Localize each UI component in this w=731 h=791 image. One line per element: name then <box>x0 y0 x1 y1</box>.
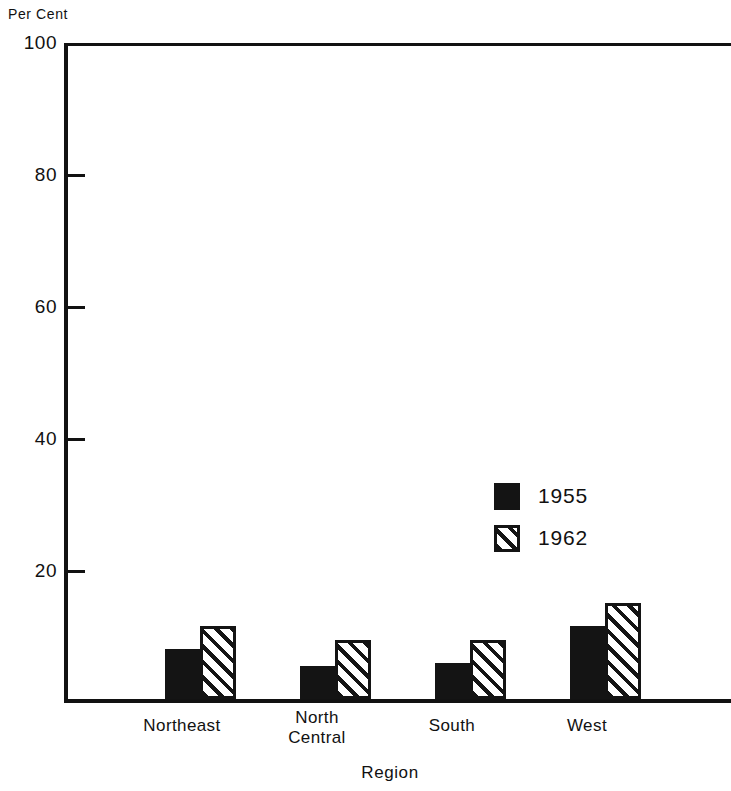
bars-layer <box>64 43 731 703</box>
x-label-north-central: North Central <box>288 708 346 748</box>
x-axis-title: Region <box>361 763 418 783</box>
legend-label-1962: 1962 <box>538 526 588 550</box>
y-tick-label-60: 60 <box>35 296 57 318</box>
bar-chart-figure: Per Cent 100 80 60 40 20 <box>0 0 731 791</box>
legend-swatch-1955 <box>494 483 520 510</box>
bar-west-1955 <box>570 626 605 699</box>
bar-northeast-1962 <box>200 626 236 699</box>
bar-northeast-1955 <box>165 649 200 699</box>
x-label-south: South <box>429 716 475 736</box>
bar-west-1962 <box>605 603 641 699</box>
bar-north-central-1955 <box>300 666 335 699</box>
x-label-northeast: Northeast <box>143 716 220 736</box>
y-tick-label-80: 80 <box>35 164 57 186</box>
legend-entry-1955: 1955 <box>494 475 588 517</box>
legend-label-1955: 1955 <box>538 484 588 508</box>
y-tick-label-20: 20 <box>35 560 57 582</box>
bar-north-central-1962 <box>335 640 371 699</box>
bar-south-1962 <box>470 640 506 699</box>
bar-south-1955 <box>435 663 470 699</box>
legend-swatch-1962 <box>494 525 520 552</box>
legend-entry-1962: 1962 <box>494 517 588 559</box>
legend: 1955 1962 <box>494 475 588 559</box>
y-axis-unit-caption: Per Cent <box>8 6 68 22</box>
plot-area: 100 80 60 40 20 <box>64 43 731 703</box>
y-tick-label-40: 40 <box>35 428 57 450</box>
x-label-west: West <box>567 716 607 736</box>
y-tick-label-100: 100 <box>24 32 57 54</box>
